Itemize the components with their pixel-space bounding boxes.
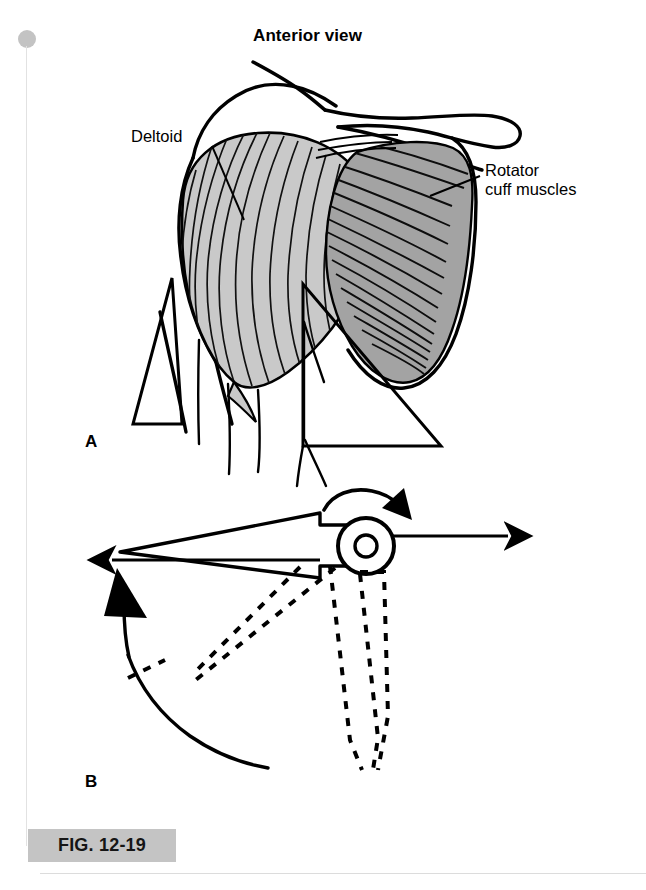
curved-elevation-arrow-icon bbox=[104, 568, 268, 768]
dashed-limb-tip bbox=[128, 660, 165, 678]
rotator-cuff-label-line2: cuff muscles bbox=[485, 180, 576, 198]
binding-dot-icon bbox=[18, 30, 36, 48]
rotator-cuff-label: Rotatorcuff muscles bbox=[485, 161, 576, 199]
deltoid-label: Deltoid bbox=[131, 127, 182, 146]
deltoid-muscle bbox=[181, 130, 374, 422]
joint-head-outer bbox=[338, 518, 394, 574]
figure-caption-chip: FIG. 12-19 bbox=[28, 829, 176, 862]
muscle-fiber-overlap bbox=[316, 135, 398, 158]
panel-label-a: A bbox=[85, 432, 97, 451]
label-leader-lines bbox=[212, 146, 480, 220]
joint-head-inner bbox=[355, 535, 377, 557]
curved-rotation-arrow-icon bbox=[324, 488, 412, 520]
humerus-body bbox=[120, 513, 352, 578]
rotator-cuff-muscle bbox=[326, 142, 472, 383]
deltoid-force-triangle bbox=[133, 278, 182, 424]
deltoid-leader-line bbox=[212, 146, 244, 220]
shoulder-outline bbox=[160, 62, 520, 432]
figure-caption-text: FIG. 12-19 bbox=[28, 829, 176, 862]
page-bottom-rule bbox=[40, 873, 646, 874]
dashed-limb-lower-a bbox=[330, 566, 362, 770]
cuff-force-triangle bbox=[303, 284, 441, 446]
rotator-cuff-label-line1: Rotator bbox=[485, 161, 539, 179]
dashed-limb-upper-a bbox=[195, 567, 300, 672]
figure-page: Anterior view Deltoid Rotatorcuff muscle… bbox=[0, 0, 646, 890]
panel-label-b: B bbox=[85, 772, 97, 791]
dashed-limb-vertical bbox=[360, 572, 388, 770]
dashed-limb-upper-b bbox=[192, 568, 335, 683]
page-title: Anterior view bbox=[253, 26, 362, 45]
rotator-cuff-leader-line bbox=[430, 176, 480, 196]
dashed-position-outlines bbox=[128, 566, 388, 776]
force-vector-triangles bbox=[133, 278, 441, 446]
humerus-shaft-lines bbox=[198, 322, 326, 486]
page-spine-line bbox=[26, 46, 27, 846]
dashed-limb-lower-b bbox=[360, 574, 378, 776]
